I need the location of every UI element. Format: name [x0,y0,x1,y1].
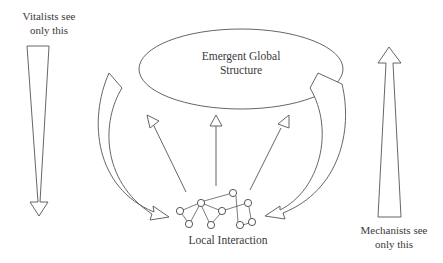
mechanists-label: Mechanists see only this [344,223,443,251]
mechanists-line-2: only this [344,237,443,251]
global-structure-label: Emergent Global Structure [175,49,307,77]
vitalists-line-1: Vitalists see [2,9,96,23]
vitalists-label: Vitalists see only this [2,9,96,37]
global-line-1: Emergent Global [175,49,307,63]
arrow-head-right [278,115,289,128]
left-curved-arrow [98,73,169,220]
mechanists-up-arrow [378,47,401,217]
mechanists-line-1: Mechanists see [344,223,443,237]
arrow-head-center [210,115,222,126]
local-interaction-label: Local Interaction [180,233,276,247]
vitalists-line-2: only this [2,23,96,37]
arrow-head-left [147,115,159,128]
global-line-2: Structure [175,63,307,77]
vitalists-down-arrow [27,46,49,216]
